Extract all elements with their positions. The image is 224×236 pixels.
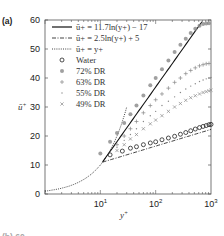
reference-lines [45,22,211,191]
legend-marker [60,80,64,84]
data-point [166,136,170,140]
line-viscous-sublayer [45,107,127,191]
legend-entry: 63% DR [60,77,106,87]
y-tick-label: 60 [30,15,40,25]
data-point [168,101,169,102]
data-point [154,140,158,144]
x-tick-label: 101 [94,198,108,209]
data-point [206,78,207,79]
data-point [189,68,193,72]
y-tick-label: 50 [30,44,40,54]
data-point [184,72,188,76]
data-point [154,118,157,121]
legend-marker [60,102,63,105]
data-point [178,132,182,136]
legend-marker [60,69,64,73]
data-point [149,122,152,125]
data-point [148,104,152,108]
plot-frame [45,20,211,194]
data-point [207,62,211,66]
data-point [201,63,205,67]
legend-label: 72% DR [76,66,106,76]
data-point [179,102,182,105]
data-point [185,88,186,89]
data-point [198,92,201,95]
data-point [193,66,197,70]
data-point [160,114,163,117]
data-point [184,99,187,102]
data-point [148,83,152,87]
data-point [184,131,188,135]
legend: ū+ = 11.7ln(y+) − 17ū+ = 2.5ln(y+) + 5ū+… [52,22,148,109]
data-point [128,112,132,116]
data-point [136,128,137,129]
data-point [160,138,164,142]
data-point [141,143,145,147]
data-point [143,121,144,122]
legend-label: 55% DR [76,88,106,98]
x-tick-label: 103 [204,198,218,209]
y-tick-labels: 0102030405060 [30,15,40,199]
data-point [135,133,138,136]
data-point [115,131,119,135]
legend-label: ū+ = 2.5ln(y+) + 5 [76,33,139,43]
x-tick-labels: 101102103 [94,198,219,209]
data-point [173,105,176,108]
data-point [130,134,131,135]
data-point [150,115,151,116]
data-point [155,111,156,112]
data-point [141,93,145,97]
data-point [134,104,138,108]
data-point [194,94,197,97]
legend-label: ū+ = 11.7ln(y+) − 17 [76,22,148,32]
data-point [198,64,202,68]
data-point [122,121,126,125]
data-point [205,90,208,93]
y-tick-label: 30 [30,102,40,112]
data-point [134,120,138,124]
data-point [128,127,132,131]
data-point [123,143,126,146]
data-point [189,129,193,133]
data-point [207,21,211,25]
data-point [173,134,177,138]
data-point [98,151,102,155]
y-axis-label: ū+ [18,102,27,112]
y-tick-label: 20 [30,131,40,141]
data-point [167,110,170,113]
data-point [184,37,188,41]
legend-label: Water [76,55,96,65]
y-tick-label: 10 [30,160,40,170]
data-point [173,50,177,54]
data-point [173,80,177,84]
data-point [160,92,164,96]
data-point [193,127,197,131]
legend-entry: 55% DR [61,88,106,98]
data-point [129,137,132,140]
data-point [161,105,162,106]
data-point [189,96,192,99]
data-point [160,67,164,71]
next-panel-partial: (b) 60 [2,232,25,236]
data-point [193,27,197,31]
legend-marker [60,58,64,62]
data-point [142,127,145,130]
data-point [208,77,209,78]
line-log-law [103,129,211,162]
data-point [122,134,126,138]
data-point [180,92,181,93]
legend-entry: 49% DR [60,99,105,109]
legend-label: 63% DR [76,77,106,87]
series-water [108,122,213,156]
legend-entry: ū+ = y+ [52,44,103,54]
data-point [128,146,132,150]
legend-entry: Water [60,55,96,65]
series-49-dr [115,89,212,153]
y-tick-label: 40 [30,73,40,83]
data-point [134,145,138,149]
panel-label: (a) [2,16,13,26]
legend-entry: 72% DR [60,66,106,76]
data-point [198,24,202,28]
data-point [210,77,211,78]
data-point [108,140,112,144]
